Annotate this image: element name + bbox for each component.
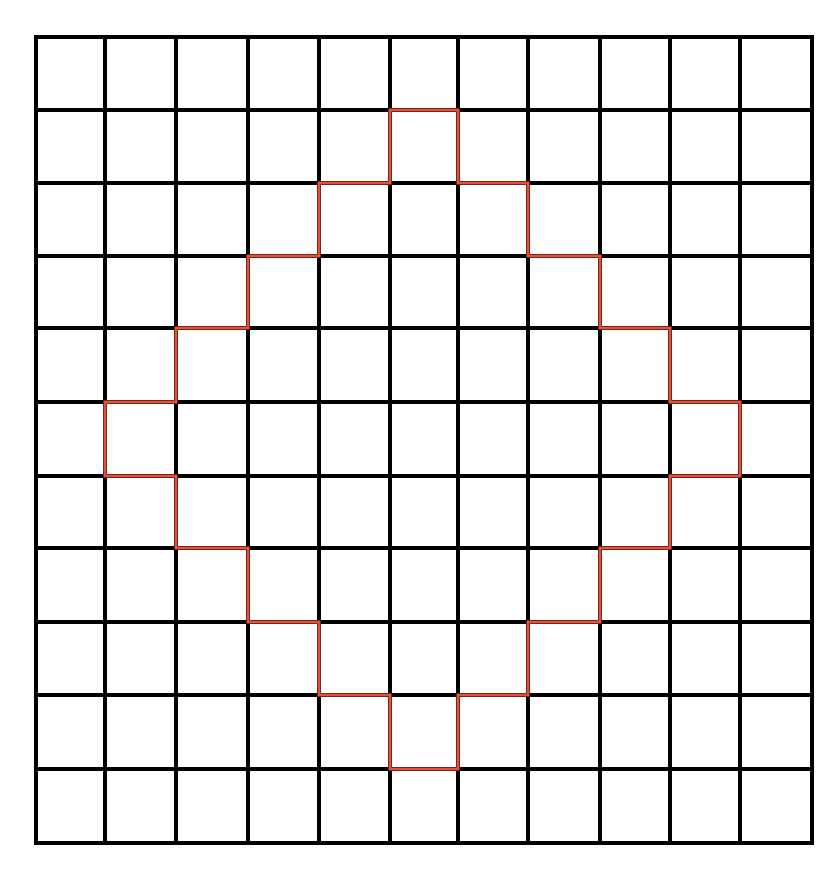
- background: [0, 0, 831, 876]
- grid-diagram: [0, 0, 831, 876]
